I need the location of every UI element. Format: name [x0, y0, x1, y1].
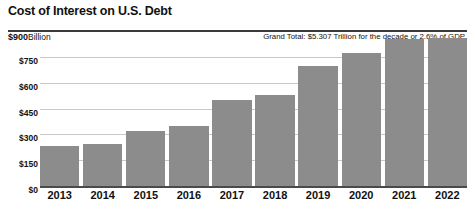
bar-2013[interactable] [40, 146, 79, 186]
bar-slot [255, 31, 294, 186]
y-axis-labels: $0$150$300$450$600$750 [0, 31, 40, 191]
y-axis-tick-label: $750 [19, 56, 38, 66]
bar-2021[interactable] [385, 39, 424, 186]
x-axis-tick-label: 2019 [298, 189, 337, 201]
bar-slot [385, 31, 424, 186]
bar-2016[interactable] [169, 126, 208, 186]
bar-series [40, 31, 467, 186]
bar-slot [169, 31, 208, 186]
x-axis-tick-label: 2020 [342, 189, 381, 201]
bar-slot [212, 31, 251, 186]
x-axis-tick-label: 2021 [385, 189, 424, 201]
y-axis-tick-label: $150 [19, 159, 38, 169]
bar-2020[interactable] [342, 53, 381, 186]
x-axis-tick-label: 2022 [428, 189, 467, 201]
chart-title: Cost of Interest on U.S. Debt [8, 4, 172, 18]
y-axis-tick-label: $600 [19, 82, 38, 92]
bar-2022[interactable] [428, 38, 467, 186]
bar-slot [40, 31, 79, 186]
bar-slot [298, 31, 337, 186]
bar-2019[interactable] [298, 66, 337, 186]
bar-slot [342, 31, 381, 186]
x-axis-tick-label: 2017 [212, 189, 251, 201]
chart-container: Cost of Interest on U.S. Debt $900Billio… [0, 0, 475, 224]
bar-2017[interactable] [212, 100, 251, 186]
x-axis-labels: 2013201420152016201720182019202020212022 [40, 189, 467, 201]
x-axis-tick-label: 2015 [126, 189, 165, 201]
y-axis-tick-label: $450 [19, 108, 38, 118]
x-axis-tick-label: 2018 [255, 189, 294, 201]
bar-2014[interactable] [83, 144, 122, 186]
bar-slot [83, 31, 122, 186]
bar-slot [428, 31, 467, 186]
x-axis-tick-label: 2016 [169, 189, 208, 201]
x-axis-tick-label: 2014 [83, 189, 122, 201]
bar-slot [126, 31, 165, 186]
y-axis-tick-label: $0 [29, 185, 38, 195]
bar-2015[interactable] [126, 131, 165, 186]
x-axis-tick-label: 2013 [40, 189, 79, 201]
gridline [40, 186, 467, 188]
bar-2018[interactable] [255, 95, 294, 186]
y-axis-tick-label: $300 [19, 133, 38, 143]
